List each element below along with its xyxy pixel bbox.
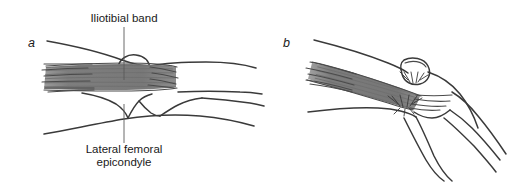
femur-shaft-outline xyxy=(47,41,150,66)
panel-a-letter: a xyxy=(28,36,35,50)
figure-canvas: a xyxy=(0,0,524,182)
anatomy-figure: a xyxy=(0,0,524,182)
joint-capsule-outline-b xyxy=(428,72,478,128)
iliotibial-band-label: Iliotibial band xyxy=(90,12,157,24)
posterior-thigh-contour-b xyxy=(308,108,416,117)
panel-a-group: a xyxy=(28,12,264,168)
calf-inner-contour-b xyxy=(404,118,444,181)
tibia-upper-line xyxy=(178,91,262,94)
panel-b-group: b xyxy=(283,36,506,181)
lateral-tibia-outline-b xyxy=(452,92,506,154)
panel-b-letter: b xyxy=(283,36,290,50)
condyle-highlight-b xyxy=(405,61,426,67)
lower-leg-contour xyxy=(44,115,254,134)
femoral-condyle-lower-outline xyxy=(82,93,128,118)
lateral-femoral-epicondyle-label-line1: Lateral femoral xyxy=(86,143,163,155)
tibial-plateau-outline xyxy=(160,98,202,116)
medial-condyle-outline xyxy=(139,101,160,116)
intercondylar-notch-outline xyxy=(128,94,152,118)
lateral-femoral-epicondyle-label-line2: epicondyle xyxy=(97,156,152,168)
tibial-tubercle-outline-b xyxy=(414,110,450,118)
fibula-line xyxy=(202,98,264,106)
